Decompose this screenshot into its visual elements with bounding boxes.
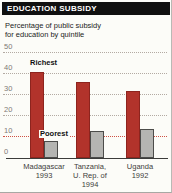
richest-label: Richest xyxy=(30,59,57,67)
x-label-line: Uganda xyxy=(108,162,172,171)
bar-richest-2 xyxy=(126,91,140,158)
x-axis-line xyxy=(6,158,168,159)
gridline-50 xyxy=(3,52,167,53)
y-tick-label-0: 0 xyxy=(4,148,8,156)
bar-richest-1 xyxy=(76,82,90,158)
plot-area: 01020304050 xyxy=(0,53,171,158)
chart-title-bar: EDUCATION SUBSIDY xyxy=(2,2,170,15)
chart-subtitle: Percentage of public subsidy for educati… xyxy=(5,21,165,39)
gridline-40 xyxy=(3,73,167,74)
bar-poorest-0 xyxy=(44,141,58,158)
y-tick-label-50: 50 xyxy=(4,43,12,51)
y-tick-label-40: 40 xyxy=(4,64,12,72)
education-subsidy-chart-card: EDUCATION SUBSIDY Percentage of public s… xyxy=(0,0,172,193)
chart-subtitle-line1: Percentage of public subsidy xyxy=(5,21,165,30)
y-tick-label-30: 30 xyxy=(4,85,12,93)
x-label-line: 1992 xyxy=(108,171,172,180)
y-tick-label-10: 10 xyxy=(4,127,12,135)
bar-poorest-1 xyxy=(90,131,104,158)
chart-subtitle-line2: for education by quintile xyxy=(5,30,165,39)
bar-poorest-2 xyxy=(140,129,154,158)
x-label-2: Uganda1992 xyxy=(108,162,172,180)
bar-richest-0 xyxy=(30,72,44,158)
poorest-label: Poorest xyxy=(39,130,69,138)
y-tick-label-20: 20 xyxy=(4,106,12,114)
chart-title: EDUCATION SUBSIDY xyxy=(7,4,97,13)
x-label-line: 1994 xyxy=(58,180,122,189)
